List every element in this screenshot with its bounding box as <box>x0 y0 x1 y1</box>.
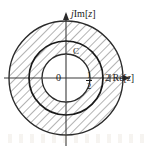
origin-label: 0 <box>56 73 61 83</box>
imaginary-axis-label-body: Im[ <box>74 8 88 19</box>
tick-label-inner-radius: 1 2 <box>86 71 92 90</box>
imaginary-axis-label: jIm[z] <box>71 9 95 19</box>
contour-label-c: C <box>73 47 79 56</box>
real-axis-label-body: Re[ <box>113 72 127 83</box>
fraction-denominator: 2 <box>86 82 92 91</box>
imaginary-axis-label-suffix: ] <box>92 8 95 19</box>
real-axis-label-suffix: ] <box>131 72 134 83</box>
scan-artifact <box>8 134 144 143</box>
fraction-numerator: 1 <box>86 71 92 80</box>
fraction-one-half: 1 2 <box>86 71 92 90</box>
real-axis-label: 2 Re[z] <box>105 73 134 83</box>
tick-label-outer-radius: 2 <box>105 72 110 83</box>
complex-plane-figure: jIm[z] 2 Re[z] 0 C 1 2 <box>0 0 152 152</box>
